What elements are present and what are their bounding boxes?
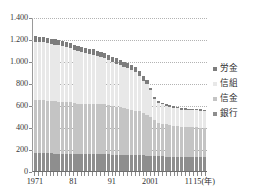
x-axis-labels: 1971819120011115(年) [0,177,260,189]
bar-segment [157,123,160,157]
bar-segment [65,102,68,154]
bar-1988 [99,52,102,171]
bar-1997 [134,67,137,171]
x-axis-tick [108,172,109,176]
bar-segment [172,126,175,157]
bar-segment [149,117,152,155]
bar-segment [96,104,99,154]
bar-segment [180,127,183,157]
bar-segment [107,105,110,155]
y-axis-tick [29,40,32,41]
bar-segment [61,102,64,154]
x-axis-tick [150,172,151,176]
bar-segment [168,125,171,157]
bar-1981 [73,45,76,171]
bar-2011 [187,109,190,171]
bar-segment [180,157,183,171]
bar-1971 [34,36,37,171]
legend-item-信金[interactable]: 信金 [213,91,258,106]
bar-segment [111,106,114,154]
bar-segment [69,48,72,102]
x-axis-tick [34,172,35,176]
bar-1980 [69,43,72,171]
legend-item-銀行[interactable]: 銀行 [213,106,258,121]
bar-1990 [107,55,110,171]
x-axis-tick [123,172,124,176]
bar-segment [126,155,129,172]
bar-segment [199,157,202,171]
x-axis-tick [181,172,182,176]
bar-1976 [53,39,56,171]
y-axis-tick [29,128,32,129]
bar-series-group [33,18,207,171]
bar-segment [126,109,129,155]
x-axis-tick [84,172,85,176]
bar-segment [73,154,76,171]
bar-segment [99,154,102,171]
plot-area [32,18,207,172]
x-axis-tick [119,172,120,176]
bar-segment [34,42,37,101]
bar-1999 [142,76,145,171]
bar-segment [53,45,56,102]
bar-segment [122,108,125,154]
x-axis-tick [170,172,171,176]
bar-segment [138,76,141,112]
bar-segment [130,70,133,110]
x-axis-tick [38,172,39,176]
x-axis-tick [73,172,74,176]
bar-segment [191,157,194,171]
bar-segment [61,46,64,101]
bar-segment [119,107,122,154]
bar-1985 [88,49,91,171]
legend-item-労金[interactable]: 労金 [213,61,258,76]
x-axis-tick [115,172,116,176]
bar-segment [111,155,114,172]
bar-segment [57,45,60,101]
bar-segment [38,153,41,171]
legend-item-信組[interactable]: 信組 [213,76,258,91]
bar-segment [46,101,49,154]
bar-1998 [138,71,141,171]
bar-segment [57,154,60,171]
bar-segment [46,43,49,101]
bar-1984 [84,48,87,171]
bar-segment [184,157,187,171]
bar-segment [203,128,206,157]
x-axis-tick [205,172,206,176]
bar-segment [161,104,164,123]
bar-1996 [130,65,133,171]
x-axis-tick [50,172,51,176]
x-axis-tick [81,172,82,176]
bar-segment [138,111,141,155]
bar-1977 [57,40,60,171]
bar-segment [38,42,41,100]
bar-segment [180,110,183,127]
bar-segment [203,157,206,171]
x-axis-label: 91 [108,177,116,187]
bar-segment [142,155,145,171]
bar-1974 [46,38,49,171]
bar-segment [88,54,91,104]
bar-segment [138,155,141,171]
x-axis-ticks [33,172,207,176]
x-axis-label: 15(年) [193,177,215,187]
bar-2012 [191,109,194,171]
bar-segment [46,153,49,171]
x-axis-tick [53,172,54,176]
bar-1994 [122,62,125,171]
bar-segment [203,111,206,128]
bar-segment [34,100,37,153]
bar-segment [84,104,87,154]
bar-segment [76,154,79,171]
bar-1983 [80,47,83,171]
bar-segment [80,104,83,154]
bar-segment [199,111,202,128]
bar-segment [134,111,137,155]
bar-segment [34,153,37,171]
bar-segment [69,154,72,171]
bar-segment [168,157,171,171]
x-axis-tick [177,172,178,176]
bar-2006 [168,105,171,171]
bar-1978 [61,41,64,171]
